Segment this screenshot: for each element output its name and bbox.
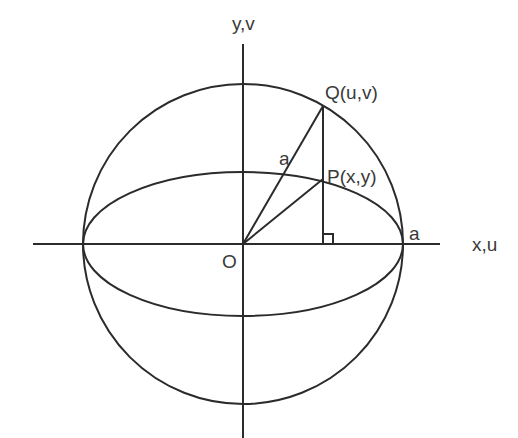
radius-label: a	[279, 148, 290, 169]
point-p-label: P(x,y)	[327, 166, 377, 187]
axis-intercept-label: a	[409, 223, 420, 244]
line-op	[243, 179, 323, 244]
origin-label: O	[222, 251, 237, 272]
y-axis-label: y,v	[232, 13, 255, 34]
right-angle-marker	[323, 234, 333, 244]
radius-line-oq	[243, 106, 323, 244]
ellipse-circle-diagram: y,v x,u O Q(u,v) P(x,y) a a	[0, 0, 518, 438]
point-q-label: Q(u,v)	[325, 82, 378, 103]
x-axis-label: x,u	[472, 234, 497, 255]
